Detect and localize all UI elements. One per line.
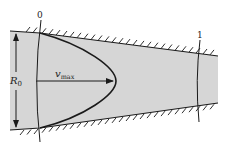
channel-flow-diagram: 0 1 R0 vmax	[0, 0, 227, 148]
section-0-label: 0	[37, 10, 43, 20]
radius-label-sub: 0	[18, 80, 22, 88]
vmax-label-sub: max	[61, 73, 75, 81]
section-1-label: 1	[197, 30, 203, 40]
